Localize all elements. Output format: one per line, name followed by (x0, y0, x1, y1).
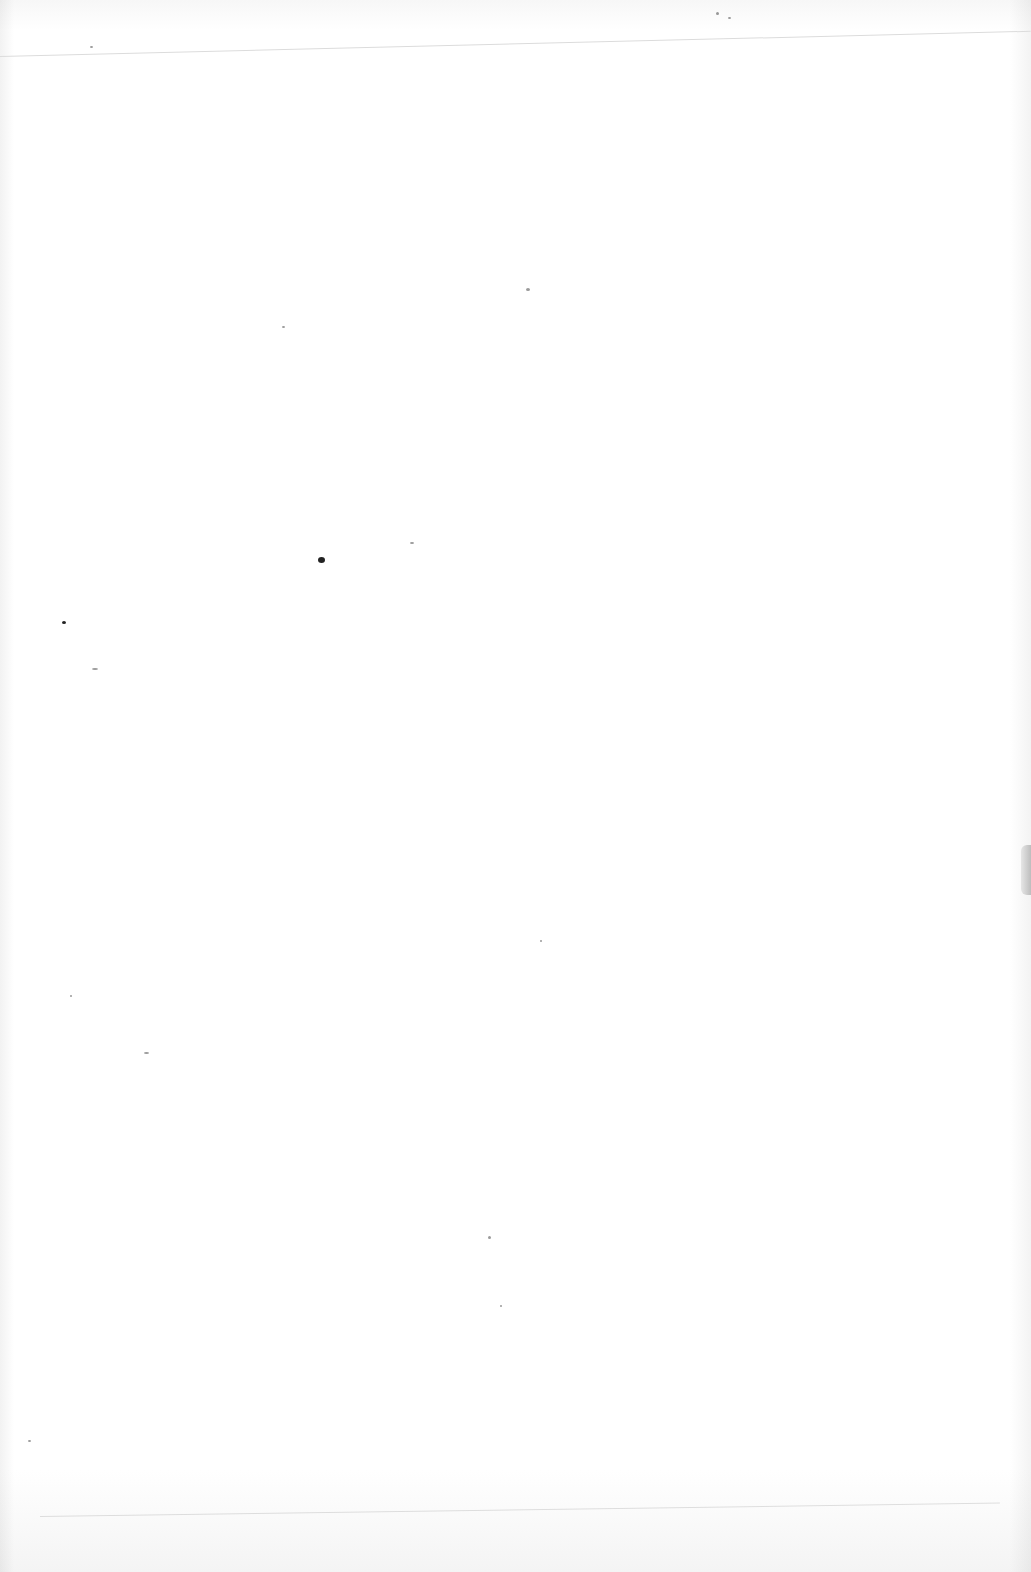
right-edge-shadow (1021, 845, 1031, 895)
dust-speck (540, 940, 542, 942)
scanned-page (0, 0, 1031, 1572)
dust-speck (500, 1305, 502, 1307)
dust-speck (716, 12, 719, 15)
dust-speck (488, 1236, 491, 1239)
top-rule-line (0, 31, 1031, 57)
dust-speck (282, 326, 285, 328)
dust-speck (92, 668, 98, 670)
dust-speck (28, 1440, 31, 1442)
dust-speck (144, 1052, 149, 1054)
dust-speck (728, 17, 731, 19)
dust-speck (90, 46, 93, 48)
dust-speck (70, 995, 72, 997)
dust-speck (410, 542, 414, 544)
ink-speck (318, 557, 325, 563)
bottom-rule-line (40, 1503, 1000, 1517)
ink-speck (62, 621, 66, 624)
dust-speck (526, 288, 530, 291)
